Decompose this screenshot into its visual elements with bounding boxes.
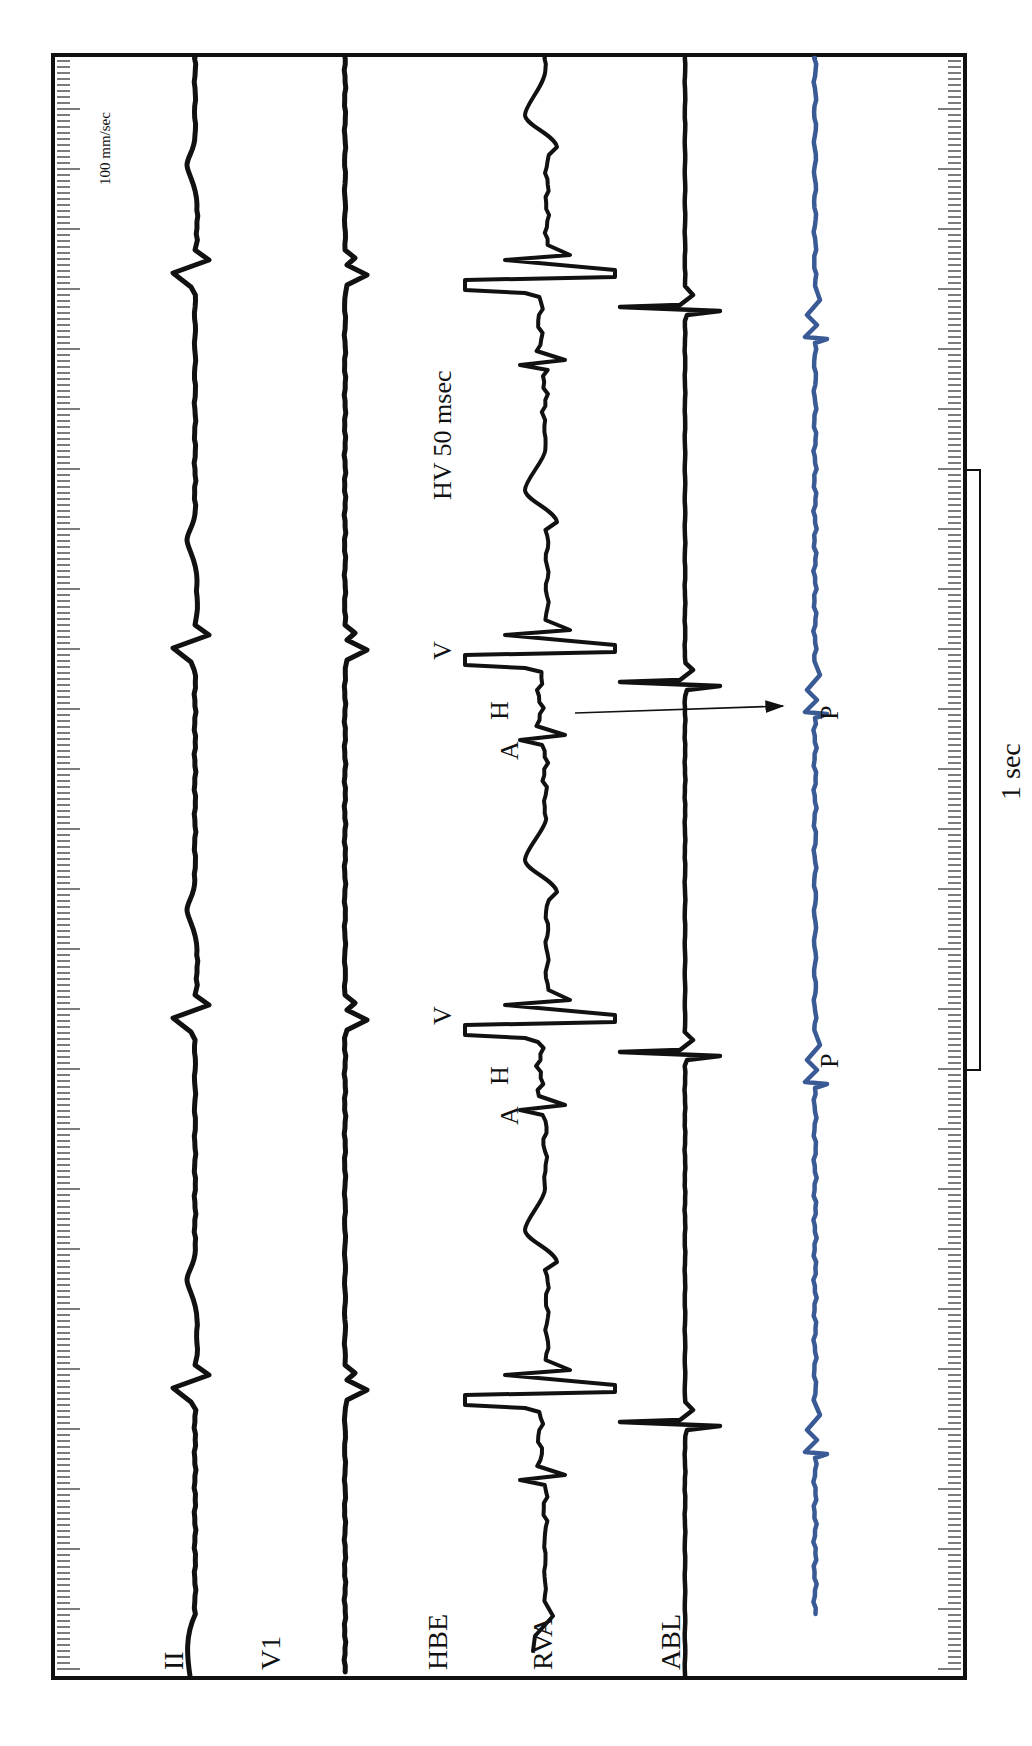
channel-label-v1: V1	[255, 1636, 287, 1670]
time-ruler-right	[938, 61, 961, 1669]
channel-label-abl: ABL	[655, 1614, 687, 1670]
a-marker-beat-3: A	[495, 1106, 525, 1125]
channel-label-rva: RVA	[527, 1617, 559, 1670]
h-marker-beat-2: H	[485, 701, 515, 720]
h-marker-beat-3: H	[485, 1066, 515, 1085]
frame-border	[53, 55, 965, 1678]
v-marker-beat-3: V	[428, 1006, 458, 1025]
p-marker-beat-2: P	[815, 706, 845, 720]
v-marker-beat-2: V	[428, 641, 458, 660]
channel-label-ii: II	[158, 1651, 190, 1670]
channel-label-hbe: HBE	[422, 1614, 454, 1670]
h-to-p-arrow	[575, 706, 783, 713]
a-marker-beat-2: A	[495, 741, 525, 760]
traces	[173, 58, 827, 1676]
hv-interval-label: HV 50 msec	[428, 370, 458, 500]
one-sec-label: 1 sec	[995, 743, 1027, 800]
egm-recording	[0, 0, 1032, 1746]
time-ruler-left	[57, 61, 80, 1669]
paper-speed-label: 100 mm/sec	[97, 112, 114, 185]
p-marker-beat-3: P	[815, 1054, 845, 1068]
